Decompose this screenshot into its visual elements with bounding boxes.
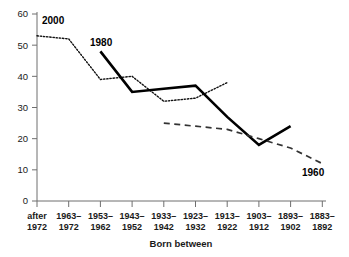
x-category-label: 1913– [215,211,240,221]
x-category-label: 1963– [56,211,81,221]
x-category-label: after [27,211,47,221]
y-axis-ticks: 0102030405060 [17,8,37,206]
y-tick-label: 20 [17,133,28,144]
y-tick-label: 10 [17,164,28,175]
y-tick-label: 30 [17,102,28,113]
line-chart: 0102030405060 after19721963–19721953–196… [0,0,349,257]
x-category-label: 1912 [249,222,269,232]
y-tick-label: 50 [17,40,28,51]
series-annotation-1960: 1960 [302,167,325,178]
x-category-label: 1932 [185,222,205,232]
x-category-label: 1952 [122,222,142,232]
series-lines [37,36,322,164]
x-category-label: 1923– [183,211,208,221]
x-category-label: 1962 [90,222,110,232]
x-category-label: 1933– [151,211,176,221]
x-category-label: 1943– [120,211,145,221]
y-tick-label: 0 [23,195,28,206]
chart-container: 0102030405060 after19721963–19721953–196… [0,0,349,257]
x-category-label: 1893– [278,211,303,221]
series-annotation-2000: 2000 [42,15,65,26]
x-category-label: 1972 [27,222,47,232]
y-tick-label: 60 [17,8,28,19]
x-category-label: 1953– [88,211,113,221]
y-tick-label: 40 [17,71,28,82]
series-annotations: 200019801960 [42,15,325,178]
x-category-label: 1922 [217,222,237,232]
x-axis-title: Born between [150,238,213,249]
x-axis-ticks [37,201,322,207]
x-category-label: 1883– [310,211,335,221]
x-category-label: 1892 [312,222,332,232]
x-category-label: 1942 [154,222,174,232]
x-axis-category-labels: after19721963–19721953–19621943–19521933… [27,211,335,232]
x-category-label: 1972 [59,222,79,232]
x-category-label: 1902 [281,222,301,232]
series-annotation-1980: 1980 [90,37,113,48]
x-category-label: 1903– [246,211,271,221]
